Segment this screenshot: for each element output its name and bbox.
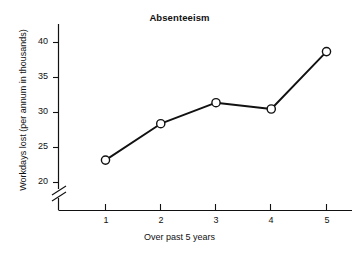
y-tick-label-35: 35 xyxy=(26,71,48,81)
data-point-5 xyxy=(322,48,330,56)
x-tick-label-2: 2 xyxy=(152,215,170,225)
x-axis-title: Over past 5 years xyxy=(0,232,359,242)
data-point-1 xyxy=(101,156,109,164)
data-point-4 xyxy=(267,105,275,113)
chart-figure: Absenteeism Over past 5 years Workdays l… xyxy=(0,0,359,262)
x-tick-label-3: 3 xyxy=(207,215,225,225)
y-tick-label-40: 40 xyxy=(26,36,48,46)
y-axis-ticks xyxy=(53,43,59,183)
x-axis-ticks xyxy=(106,204,327,211)
chart-plot-area xyxy=(0,0,359,262)
y-tick-label-30: 30 xyxy=(26,106,48,116)
y-tick-label-25: 25 xyxy=(26,141,48,151)
x-tick-label-4: 4 xyxy=(262,215,280,225)
data-point-markers xyxy=(101,48,330,165)
y-tick-label-20: 20 xyxy=(26,176,48,186)
x-tick-label-1: 1 xyxy=(97,215,115,225)
data-point-2 xyxy=(157,120,165,128)
data-point-3 xyxy=(212,99,220,107)
x-tick-label-5: 5 xyxy=(318,215,336,225)
